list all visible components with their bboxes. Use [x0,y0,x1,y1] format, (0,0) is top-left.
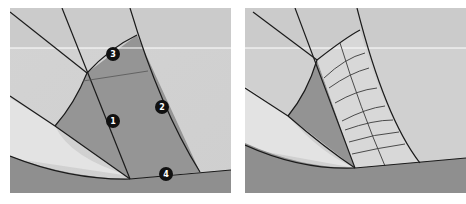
right-panel [245,8,466,193]
svg-text:1: 1 [110,117,116,126]
left-surface-diagram: 1 2 3 4 [10,8,231,193]
svg-text:3: 3 [110,50,116,59]
label-badge-4: 4 [159,167,173,181]
right-surface-diagram [245,8,466,193]
svg-text:4: 4 [163,170,169,179]
label-badge-1: 1 [106,114,120,128]
svg-text:2: 2 [159,103,165,112]
label-badge-2: 2 [155,100,169,114]
label-badge-3: 3 [106,47,120,61]
left-panel: 1 2 3 4 [10,8,231,193]
